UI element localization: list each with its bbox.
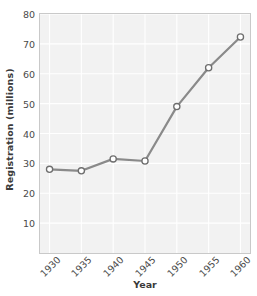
data-point [110, 156, 116, 162]
x-axis-tick-labels: 1930193519401945195019551960 [0, 252, 257, 282]
x-tick-label: 1955 [214, 254, 222, 262]
y-tick-label: 50 [23, 98, 35, 109]
data-point [142, 158, 148, 164]
data-point [206, 65, 212, 71]
data-point [237, 34, 243, 40]
y-tick-label: 60 [23, 68, 35, 79]
x-tick-label: 1940 [118, 254, 126, 262]
x-tick-label: 1950 [182, 254, 190, 262]
x-tick-label: 1960 [245, 254, 253, 262]
y-axis-title-text: Registration (millions) [4, 68, 15, 190]
x-tick-label: 1935 [86, 254, 94, 262]
plot-area [39, 13, 251, 254]
data-point [174, 104, 180, 110]
x-tick-label: 1945 [150, 254, 158, 262]
y-tick-label: 70 [23, 38, 35, 49]
x-axis-title: Year [38, 279, 252, 290]
data-point [46, 166, 52, 172]
line-chart: Registration (millions) 1020304050607080… [0, 0, 257, 296]
y-tick-label: 80 [23, 9, 35, 20]
y-axis-tick-labels: 1020304050607080 [16, 0, 38, 258]
y-tick-label: 40 [23, 128, 35, 139]
y-tick-label: 20 [23, 188, 35, 199]
data-point [78, 168, 84, 174]
y-tick-label: 30 [23, 158, 35, 169]
plot-canvas [40, 14, 250, 253]
x-tick-label: 1930 [55, 254, 63, 262]
y-tick-label: 10 [23, 218, 35, 229]
